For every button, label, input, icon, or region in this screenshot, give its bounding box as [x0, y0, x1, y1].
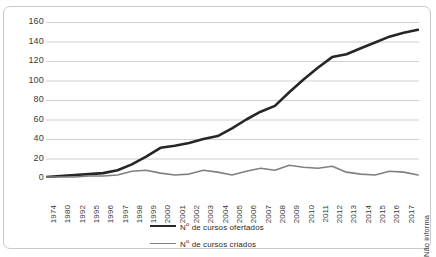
x-axis: 1974198019921995199619971998199920002001…: [46, 179, 419, 219]
chart-svg: [46, 22, 419, 178]
x-axis-tick-label: 1992: [79, 205, 87, 223]
y-axis-tick-label: 140: [8, 37, 44, 46]
plot-area: [46, 22, 419, 178]
y-axis-tick-label: 60: [8, 115, 44, 124]
x-axis-tick-label: 1997: [122, 205, 130, 223]
x-axis-tick-label: Não informa: [423, 215, 431, 257]
y-axis-tick-label: 100: [8, 76, 44, 85]
x-axis-tick-label: 1998: [136, 205, 144, 223]
chart-legend: No de cursos ofertadosNo de cursos criad…: [150, 219, 370, 253]
y-axis-tick-label: 80: [8, 95, 44, 104]
legend-swatch-icon: [150, 243, 176, 244]
series-line-1: [46, 30, 418, 177]
y-axis: 020406080100120140160: [2, 0, 44, 178]
series-line-2: [46, 165, 418, 177]
x-axis-tick-label: 1996: [107, 205, 115, 223]
legend-item: No de cursos ofertados: [150, 219, 370, 233]
y-axis-tick-label: 0: [8, 173, 44, 182]
y-axis-tick-label: 160: [8, 17, 44, 26]
legend-item-label: No de cursos ofertados: [180, 221, 264, 232]
x-axis-tick-label: 2015: [379, 205, 387, 223]
x-axis-tick-label: 1974: [50, 205, 58, 223]
legend-item: No de cursos criados: [150, 236, 370, 250]
x-axis-tick-label: 1980: [64, 205, 72, 223]
y-axis-tick-label: 20: [8, 154, 44, 163]
x-axis-tick-label: 1995: [93, 205, 101, 223]
y-axis-tick-label: 40: [8, 134, 44, 143]
legend-swatch-icon: [150, 225, 176, 227]
legend-item-label: No de cursos criados: [180, 238, 256, 249]
y-axis-tick-label: 120: [8, 56, 44, 65]
x-axis-tick-label: 2016: [393, 205, 401, 223]
x-axis-tick-label: 2017: [408, 205, 416, 223]
